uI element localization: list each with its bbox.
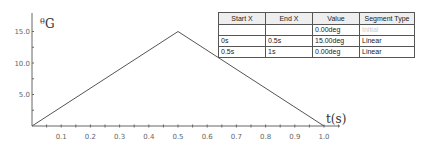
cell-value[interactable]: 0.00deg xyxy=(313,25,360,36)
x-tick-label: 0.4 xyxy=(143,133,155,141)
x-tick-label: 0.8 xyxy=(260,133,271,141)
header-end-x: End X xyxy=(266,13,313,25)
cell-value[interactable]: 15.00deg xyxy=(313,36,360,47)
cell-end-x[interactable]: 0.5s xyxy=(266,36,313,47)
table-header-row: Start X End X Value Segment Type xyxy=(219,13,415,25)
cell-end-x[interactable]: 1s xyxy=(266,47,313,58)
segment-table: Start X End X Value Segment Type 0.00deg… xyxy=(218,12,415,58)
cell-start-x[interactable]: 0.5s xyxy=(219,47,266,58)
table-row[interactable]: 0.00deg Initial xyxy=(219,25,415,36)
x-tick-label: 0.3 xyxy=(114,133,125,141)
header-value: Value xyxy=(313,13,360,25)
cell-start-x[interactable]: 0s xyxy=(219,36,266,47)
y-tick-label: 10.0 xyxy=(14,60,30,68)
table-row[interactable]: 0.5s 1s 0.00deg Linear xyxy=(219,47,415,58)
y-tick-label: 15.0 xyxy=(14,28,30,36)
cell-segment-type: Initial xyxy=(360,25,415,36)
y-axis-label: G xyxy=(45,17,55,31)
cell-segment-type[interactable]: Linear xyxy=(360,36,415,47)
x-tick-label: 0.2 xyxy=(85,133,96,141)
x-tick-label: 0.5 xyxy=(172,133,183,141)
cell-value[interactable]: 0.00deg xyxy=(313,47,360,58)
header-segment-type: Segment Type xyxy=(360,13,415,25)
x-tick-label: 0.9 xyxy=(289,133,300,141)
y-ticks: 5.010.015.0 xyxy=(14,28,34,110)
x-ticks: 0.10.20.30.40.50.60.70.80.91.0 xyxy=(47,125,339,142)
x-tick-label: 1.0 xyxy=(318,133,329,141)
x-tick-label: 0.7 xyxy=(231,133,242,141)
header-start-x: Start X xyxy=(219,13,266,25)
x-axis-label: t(s) xyxy=(326,112,346,126)
x-tick-label: 0.6 xyxy=(202,133,214,141)
y-tick-label: 5.0 xyxy=(19,91,30,99)
cell-end-x[interactable] xyxy=(266,25,313,36)
x-tick-label: 0.1 xyxy=(56,133,67,141)
table-row[interactable]: 0s 0.5s 15.00deg Linear xyxy=(219,36,415,47)
cell-start-x[interactable] xyxy=(219,25,266,36)
cell-segment-type[interactable]: Linear xyxy=(360,47,415,58)
